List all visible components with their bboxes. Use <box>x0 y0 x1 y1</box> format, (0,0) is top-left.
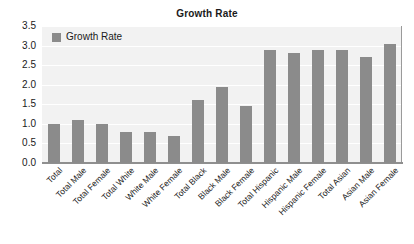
y-axis-tick-label: 1.5 <box>22 99 36 109</box>
bar-slot <box>234 26 258 163</box>
bar-slot <box>90 26 114 163</box>
y-axis-tick-label: 3.5 <box>22 21 36 31</box>
bar-slot <box>138 26 162 163</box>
bar[interactable] <box>264 50 276 164</box>
bar-slot <box>354 26 378 163</box>
y-axis-tick-label: 2.5 <box>22 60 36 70</box>
chart-legend: Growth Rate <box>52 32 122 42</box>
bar[interactable] <box>48 124 60 163</box>
bar-slot <box>378 26 402 163</box>
bar-slot <box>186 26 210 163</box>
bar-slot <box>306 26 330 163</box>
bar[interactable] <box>336 50 348 164</box>
bar[interactable] <box>144 132 156 163</box>
bar[interactable] <box>288 53 300 163</box>
bar[interactable] <box>192 100 204 163</box>
y-axis-tick-label: 3.0 <box>22 41 36 51</box>
y-axis-tick-label: 2.0 <box>22 80 36 90</box>
y-axis-tick-label: 0.0 <box>22 158 36 168</box>
bar[interactable] <box>120 132 132 163</box>
chart-title: Growth Rate <box>0 8 414 19</box>
y-axis-tick-label: 1.0 <box>22 119 36 129</box>
y-axis-tick-label: 0.5 <box>22 138 36 148</box>
bar-series <box>42 26 402 163</box>
bar-slot <box>258 26 282 163</box>
bar-slot <box>210 26 234 163</box>
legend-swatch-icon <box>52 33 61 42</box>
bar[interactable] <box>360 57 372 163</box>
growth-rate-bar-chart: Growth Rate 3.53.02.52.01.51.00.50.0 Tot… <box>0 0 414 244</box>
legend-label: Growth Rate <box>66 32 122 42</box>
bar[interactable] <box>168 136 180 163</box>
x-axis-labels: TotalTotal MaleTotal FemaleTotal WhiteWh… <box>42 164 402 240</box>
bar[interactable] <box>216 87 228 163</box>
caption-remnant <box>0 234 414 244</box>
bar[interactable] <box>72 120 84 163</box>
bar-slot <box>282 26 306 163</box>
bar[interactable] <box>240 106 252 163</box>
bar[interactable] <box>312 50 324 164</box>
bar[interactable] <box>384 44 396 163</box>
bar-slot <box>66 26 90 163</box>
bar-slot <box>162 26 186 163</box>
bar[interactable] <box>96 124 108 163</box>
y-axis: 3.53.02.52.01.51.00.50.0 <box>0 26 40 163</box>
x-axis-tick-label: Total <box>45 166 64 185</box>
bar-slot <box>42 26 66 163</box>
bar-slot <box>114 26 138 163</box>
bar-slot <box>330 26 354 163</box>
